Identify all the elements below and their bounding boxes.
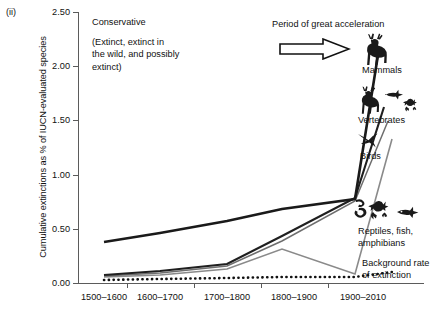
xtick-label-2: 1700–1800 [204, 292, 250, 302]
xtick-label-1: 1600–1700 [137, 292, 183, 302]
deer-bird-frog-icon [352, 85, 422, 117]
xtick-label-4: 1900–2010 [340, 292, 386, 302]
chart-figure: (ii) Cumulative extinctions as % of IUCN… [0, 0, 436, 311]
series-line-birds [104, 121, 388, 276]
series-label-background: Background rate of extinction [362, 258, 429, 281]
panel-tag: (ii) [6, 7, 16, 17]
ytick-label-2: 1.00 [52, 170, 70, 180]
ytick-label-0: 0.00 [52, 278, 70, 288]
series-label-reptiles: Reptiles, fish, amphibians [358, 226, 413, 249]
series-label-vertebrates: Vertebrates [358, 115, 405, 127]
series-label-birds: Birds [360, 151, 381, 163]
y-axis-label: Cumulative extinctions as % of IUCN-eval… [38, 22, 48, 272]
ytick-label-4: 2.00 [52, 61, 70, 71]
ytick-label-1: 0.50 [52, 224, 70, 234]
x-axis [78, 283, 424, 284]
ytick-label-5: 2.50 [52, 7, 70, 17]
series-line-vertebrates [104, 107, 384, 275]
series-label-mammals: Mammals [362, 65, 402, 77]
snake-frog-fish-icon [352, 196, 424, 226]
bird-icon [356, 131, 390, 151]
xtick-label-0: 1500–1600 [81, 292, 127, 302]
xtick-label-3: 1800–1900 [271, 292, 317, 302]
ytick-label-3: 1.50 [52, 115, 70, 125]
series-line-mammals [104, 55, 378, 242]
deer-icon [356, 32, 398, 66]
